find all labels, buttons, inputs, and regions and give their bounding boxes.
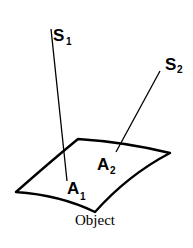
label-a2: A 2 bbox=[97, 155, 116, 176]
ray-s2-a2 bbox=[116, 71, 160, 152]
svg-text:A: A bbox=[67, 179, 79, 198]
label-s2: S 2 bbox=[165, 55, 183, 75]
caption-object: Object bbox=[75, 212, 116, 228]
label-a1: A 1 bbox=[67, 179, 86, 202]
label-s1: S 1 bbox=[53, 26, 72, 47]
svg-text:2: 2 bbox=[110, 165, 116, 176]
svg-text:2: 2 bbox=[177, 64, 183, 75]
object-surface bbox=[16, 139, 170, 212]
svg-text:1: 1 bbox=[66, 36, 72, 47]
svg-text:A: A bbox=[97, 155, 109, 174]
svg-text:S: S bbox=[165, 55, 176, 74]
svg-text:1: 1 bbox=[80, 191, 86, 202]
svg-text:S: S bbox=[53, 26, 64, 45]
diagram-canvas: S 1 S 2 A 2 A 1 Object bbox=[0, 0, 193, 248]
